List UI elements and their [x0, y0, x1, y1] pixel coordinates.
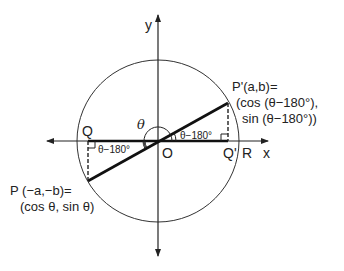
- p-label-line1: P (−a,−b)=: [10, 183, 72, 198]
- y-axis-label: y: [145, 17, 152, 33]
- point-qprime-label: Q': [223, 145, 237, 161]
- unit-circle-diagram: y x O Q Q' R θ θ−180° θ−180° P'(a,b)= (c…: [0, 0, 344, 271]
- left-angle-label: θ−180°: [98, 144, 130, 155]
- pprime-label-line1: P'(a,b)=: [232, 79, 277, 94]
- theta-label: θ: [137, 117, 145, 132]
- point-r-label: R: [242, 145, 252, 161]
- point-q-label: Q: [82, 123, 93, 139]
- right-angle-label: θ−180°: [180, 130, 212, 141]
- pprime-label-line3: sin (θ−180°)): [242, 111, 317, 126]
- x-axis-label: x: [263, 145, 270, 161]
- origin-label: O: [162, 145, 173, 161]
- p-label-line2: (cos θ, sin θ): [20, 199, 94, 214]
- pprime-label-line2: (cos (θ−180°),: [236, 95, 318, 110]
